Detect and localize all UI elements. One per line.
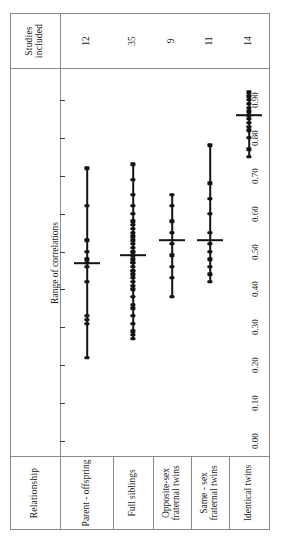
data-point: [84, 322, 89, 325]
data-point: [130, 273, 135, 276]
data-point: [130, 250, 135, 253]
data-point: [169, 254, 174, 257]
data-point: [130, 163, 135, 166]
data-point: [246, 110, 251, 113]
data-point: [84, 280, 89, 283]
studies-count-cell: 9: [153, 14, 191, 68]
studies-count-cell: 14: [229, 14, 269, 68]
category-label-text: Same - sexfraternal twins: [200, 465, 220, 520]
series-column: [153, 69, 191, 456]
data-point: [84, 238, 89, 241]
data-point: [130, 261, 135, 264]
category-label-text: Opposite-sexfraternal twins: [162, 465, 182, 520]
data-point: [130, 242, 135, 245]
data-point: [169, 204, 174, 207]
data-point: [207, 197, 212, 200]
data-point: [130, 257, 135, 260]
data-point: [246, 136, 251, 139]
category-label-cell: Identical twins: [229, 457, 269, 529]
data-point: [246, 148, 251, 151]
studies-count-value: 11: [205, 36, 215, 45]
category-label-cell: Parent - offspring: [61, 457, 113, 529]
data-point: [207, 257, 212, 260]
data-point: [130, 276, 135, 279]
data-point: [207, 212, 212, 215]
mean-marker: [197, 239, 223, 241]
data-point: [246, 121, 251, 124]
data-point: [207, 231, 212, 234]
studies-included-header-line2: included: [35, 24, 45, 58]
data-point: [207, 182, 212, 185]
data-point: [130, 246, 135, 249]
category-column-divider: [191, 457, 192, 529]
data-point: [130, 227, 135, 230]
studies-count-cell: 11: [191, 14, 229, 68]
table-frame: Studies included 123591114 Range of corr…: [10, 13, 270, 530]
data-point: [130, 280, 135, 283]
category-label-line1: Opposite-sex: [161, 468, 171, 518]
data-point: [84, 356, 89, 359]
data-point: [207, 265, 212, 268]
data-point: [84, 250, 89, 253]
data-point: [207, 280, 212, 283]
data-point: [246, 155, 251, 158]
data-point: [169, 265, 174, 268]
data-point: [84, 257, 89, 260]
category-label-line2: fraternal twins: [171, 465, 181, 520]
category-label-cell: Full siblings: [113, 457, 153, 529]
data-point: [246, 129, 251, 132]
data-point: [130, 295, 135, 298]
category-label-line2: fraternal twins: [209, 465, 219, 520]
category-label-cell: Opposite-sexfraternal twins: [153, 457, 191, 529]
data-point: [246, 106, 251, 109]
data-point: [169, 295, 174, 298]
category-column-divider: [229, 457, 230, 529]
data-point: [130, 333, 135, 336]
category-label-cell: Same - sexfraternal twins: [191, 457, 229, 529]
category-column-divider: [153, 457, 154, 529]
data-point: [130, 314, 135, 317]
data-point: [130, 303, 135, 306]
studies-included-header-line1: Studies: [25, 26, 35, 55]
data-point: [246, 125, 251, 128]
studies-included-header: Studies included: [11, 14, 60, 68]
data-point: [246, 95, 251, 98]
data-point: [130, 220, 135, 223]
relationship-header: Relationship: [11, 457, 60, 529]
figure-root: Studies included 123591114 Range of corr…: [0, 0, 283, 545]
data-point: [169, 276, 174, 279]
studies-count-value: 9: [167, 39, 177, 44]
studies-count-cell: 35: [113, 14, 153, 68]
data-point: [246, 102, 251, 105]
data-point: [130, 178, 135, 181]
data-point: [207, 273, 212, 276]
data-point: [207, 144, 212, 147]
studies-count-value: 14: [244, 36, 254, 46]
series-column: [229, 69, 269, 456]
data-point: [130, 223, 135, 226]
data-point: [207, 242, 212, 245]
data-point: [169, 242, 174, 245]
category-column-divider: [113, 457, 114, 529]
data-point: [84, 204, 89, 207]
data-point: [169, 231, 174, 234]
category-label-text: Parent - offspring: [82, 460, 92, 527]
data-point: [130, 322, 135, 325]
data-point: [169, 220, 174, 223]
relationship-header-text: Relationship: [31, 468, 41, 518]
studies-count-cell: 12: [61, 14, 113, 68]
data-point: [130, 231, 135, 234]
range-line: [171, 195, 173, 297]
series-column: [61, 69, 113, 456]
category-label-text: Full siblings: [128, 469, 138, 516]
data-point: [84, 166, 89, 169]
data-point: [130, 212, 135, 215]
data-point: [84, 318, 89, 321]
plot-area: [11, 69, 269, 456]
data-point: [207, 250, 212, 253]
series-column: [113, 69, 153, 456]
studies-count-value: 12: [82, 36, 92, 46]
data-point: [130, 265, 135, 268]
data-point: [169, 193, 174, 196]
studies-count-value: 35: [128, 36, 138, 46]
